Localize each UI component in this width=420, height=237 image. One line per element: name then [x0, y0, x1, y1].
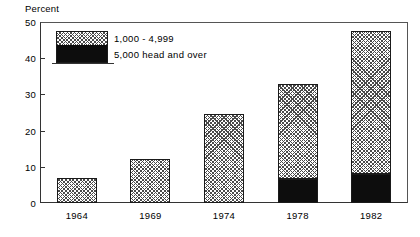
y-tick-label: 0 [2, 198, 36, 209]
legend: 1,000 - 4,999 5,000 head and over [56, 31, 207, 63]
bar-chart: Percent 01020304050 19641969197419781982… [0, 0, 420, 237]
y-tick-label: 50 [2, 17, 36, 28]
bar-segment-1964-hatched [57, 178, 97, 203]
y-axis-tick-labels: 01020304050 [0, 0, 36, 237]
bar-1974 [204, 22, 244, 203]
x-tick-label-1982: 1982 [360, 210, 382, 221]
bar-segment-1969-hatched [130, 159, 170, 203]
x-tick-label-1974: 1974 [213, 210, 235, 221]
x-tick-label-1978: 1978 [286, 210, 308, 221]
legend-item-1000-4999: 1,000 - 4,999 [114, 31, 207, 47]
bar-segment-1982-solid [351, 174, 391, 203]
bar-segment-1978-hatched [278, 84, 318, 179]
legend-labels: 1,000 - 4,999 5,000 head and over [114, 31, 207, 63]
x-tick-label-1969: 1969 [139, 210, 161, 221]
bar-segment-1978-solid [278, 179, 318, 203]
legend-baseline [52, 63, 114, 64]
legend-swatch [56, 31, 108, 63]
bar-segment-1982-hatched [351, 31, 391, 174]
y-tick-label: 40 [2, 53, 36, 64]
legend-swatch-hatched [57, 32, 107, 46]
y-tick-label: 30 [2, 89, 36, 100]
bar-segment-1974-hatched [204, 114, 244, 203]
legend-item-5000-and-over: 5,000 head and over [114, 47, 207, 63]
x-tick-label-1964: 1964 [66, 210, 88, 221]
y-tick-label: 20 [2, 125, 36, 136]
bar-1978 [278, 22, 318, 203]
bar-1982 [351, 22, 391, 203]
y-tick-label: 10 [2, 161, 36, 172]
legend-swatch-solid [57, 45, 107, 62]
